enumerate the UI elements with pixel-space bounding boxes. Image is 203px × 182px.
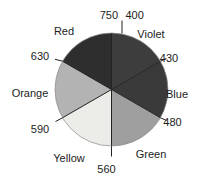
sector-label-violet: Violet bbox=[137, 28, 164, 40]
wavelength-label-590: 590 bbox=[31, 123, 49, 135]
color-wheel-figure: VioletBlueGreenYellowOrangeRed7504004304… bbox=[0, 0, 203, 182]
wavelength-label-750: 750 bbox=[100, 9, 118, 21]
wavelength-label-400: 400 bbox=[126, 9, 144, 21]
wavelength-label-430: 430 bbox=[160, 52, 178, 64]
sector-label-green: Green bbox=[136, 148, 167, 160]
wavelength-tick-630 bbox=[55, 59, 63, 61]
sector-label-orange: Orange bbox=[12, 87, 49, 99]
wavelength-label-480: 480 bbox=[163, 116, 181, 128]
wavelength-tick-590 bbox=[56, 118, 64, 122]
wavelength-label-630: 630 bbox=[31, 50, 49, 62]
sector-label-blue: Blue bbox=[166, 88, 188, 100]
wavelength-label-560: 560 bbox=[97, 163, 115, 175]
sector-label-red: Red bbox=[54, 25, 74, 37]
color-wheel-svg: VioletBlueGreenYellowOrangeRed7504004304… bbox=[0, 0, 203, 182]
sector-label-yellow: Yellow bbox=[53, 152, 84, 164]
